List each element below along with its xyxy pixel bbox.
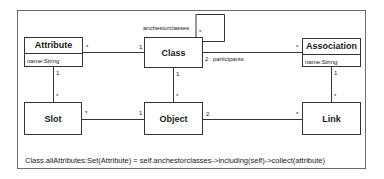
class-box-class[interactable]: Class [144, 37, 203, 68]
class-box-slot[interactable]: Slot [24, 102, 82, 135]
class-box-association[interactable]: Association name:String [302, 38, 361, 67]
mult-attribute-slot-slot-end: * [56, 93, 58, 100]
ocl-constraint: Class.allAttributes:Set(Attribute) = sel… [25, 156, 325, 165]
class-name: Association [303, 39, 360, 55]
mult-attribute-class-class-end: 1 [139, 44, 142, 51]
mult-self-loop: * [199, 29, 201, 36]
class-attribute: name:String [303, 55, 360, 69]
mult-object-link-object-end: 2 [206, 111, 209, 118]
class-name: Object [159, 114, 187, 124]
mult-attribute-class-attr-end: * [86, 44, 88, 51]
class-name: Attribute [25, 38, 82, 54]
mult-class-object-object-end: * [176, 93, 178, 100]
role-anchestorclasses: anchestorclasses [143, 25, 189, 32]
class-box-link[interactable]: Link [302, 102, 361, 135]
association-lines [0, 0, 384, 179]
class-name: Slot [45, 114, 62, 124]
mult-association-link-assoc-end: 1 [334, 70, 337, 77]
class-name: Link [322, 114, 341, 124]
mult-attribute-slot-attr-end: 1 [56, 70, 59, 77]
class-name: Class [161, 48, 185, 58]
mult-object-link-link-end: * [296, 111, 298, 118]
class-attribute: name:String [25, 54, 82, 68]
mult-association-end: * [296, 44, 298, 51]
class-box-attribute[interactable]: Attribute name:String [24, 37, 83, 67]
class-box-object[interactable]: Object [144, 102, 203, 135]
mult-participants: 2 [205, 56, 208, 63]
role-participants: participants [213, 56, 244, 63]
mult-slot-object-slot-end: * [85, 110, 87, 117]
mult-association-link-link-end: * [334, 93, 336, 100]
mult-class-object-class-end: 1 [176, 71, 179, 78]
mult-slot-object-object-end: 1 [139, 110, 142, 117]
